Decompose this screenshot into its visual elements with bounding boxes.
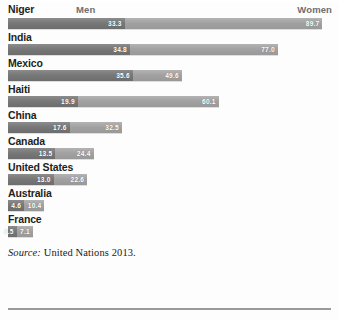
bar-row: Haiti19.960.1 [8,83,334,107]
bar-track: 33.389.7 [8,18,334,29]
bar-segment-men: 13.0 [8,174,54,185]
bar-track: 4.610.4 [8,200,334,211]
bar-segment-women: 22.6 [54,174,88,185]
bar-segment-men: 4.6 [8,200,24,211]
bar-segment-men: 35.6 [8,70,133,81]
bar-segment-women: 10.4 [24,200,44,211]
bar-row: China17.632.5 [8,109,334,133]
bar-segment-women: 49.6 [133,70,182,81]
bar-segment-women: 24.4 [55,148,93,159]
bar-value-men: 4.6 [11,200,21,211]
bar-value-women: 32.5 [105,122,119,133]
bar-row: Mexico35.649.6 [8,57,334,81]
bar-row-label: Haiti [8,83,334,96]
bar-value-women: 10.4 [28,200,42,211]
bar-value-women: 7.1 [20,226,30,237]
bar-track: 17.632.5 [8,122,334,133]
bar-segment-men: 19.9 [8,96,78,107]
source-prefix: Source: [8,247,41,258]
bar-row: United States13.022.6 [8,161,334,185]
bar: 17.632.5 [8,122,122,133]
chart-header: Niger Men Women [8,2,334,18]
bar-row: Australia4.610.4 [8,187,334,211]
bar-row: Niger33.389.7 [8,18,334,29]
bar: 35.649.6 [8,70,182,81]
bar-segment-men: 34.8 [8,44,130,55]
bar-segment-men: 33.3 [8,18,125,29]
bar-value-women: 22.6 [71,174,85,185]
bar-row-label: Australia [8,187,334,200]
bar-value-women: 77.0 [261,44,275,55]
bar-value-women: 49.6 [165,70,179,81]
bottom-divider [8,308,331,310]
bar-segment-women: 32.5 [70,122,122,133]
bar-track: 35.649.6 [8,70,334,81]
bar-value-women: 24.4 [77,148,91,159]
bar-segment-women: 89.7 [125,18,323,29]
bar-segment-women: 7.1 [17,226,33,237]
bar-value-men: 35.6 [116,70,130,81]
bar-value-men: 2.5 [4,226,14,237]
bar-value-men: 13.5 [39,148,53,159]
bar-value-men: 34.8 [113,44,127,55]
bar: 2.57.1 [8,226,33,237]
bar-value-men: 33.3 [108,18,122,29]
source-note: Source: United Nations 2013. [8,247,339,258]
bar-row-label: Mexico [8,57,334,70]
legend-label-men: Men [76,4,95,15]
bar: 34.877.0 [8,44,278,55]
bar-track: 34.877.0 [8,44,334,55]
bar-value-men: 13.0 [37,174,51,185]
bar: 19.960.1 [8,96,219,107]
bar-value-men: 17.6 [53,122,67,133]
bar-track: 13.524.4 [8,148,334,159]
bar-segment-women: 77.0 [130,44,278,55]
bar-row: India34.877.0 [8,31,334,55]
bar-row: France2.57.1 [8,213,334,237]
bar-row-label: India [8,31,334,44]
bar: 4.610.4 [8,200,44,211]
bar-segment-men: 13.5 [8,148,55,159]
first-row-label: Niger [8,3,34,15]
chart-figure: Niger Men Women Niger33.389.7India34.877… [0,2,339,320]
bar-segment-men: 17.6 [8,122,70,133]
bar-value-women: 60.1 [202,96,216,107]
bar-chart-plot: Niger33.389.7India34.877.0Mexico35.649.6… [8,18,334,237]
legend-label-women: Women [297,4,332,15]
bar: 33.389.7 [8,18,322,29]
bar: 13.524.4 [8,148,94,159]
bar-track: 19.960.1 [8,96,334,107]
bar-segment-women: 60.1 [78,96,219,107]
bar-row: Canada13.524.4 [8,135,334,159]
bar-track: 2.57.1 [8,226,334,237]
bar-row-label: France [8,213,334,226]
bar-row-label: Canada [8,135,334,148]
bar-row-label: United States [8,161,334,174]
bar-value-women: 89.7 [306,18,320,29]
bar-row-label: China [8,109,334,122]
source-text: United Nations 2013. [41,247,136,258]
bar-value-men: 19.9 [61,96,75,107]
bar-segment-men: 2.5 [8,226,17,237]
bar-track: 13.022.6 [8,174,334,185]
bar: 13.022.6 [8,174,87,185]
